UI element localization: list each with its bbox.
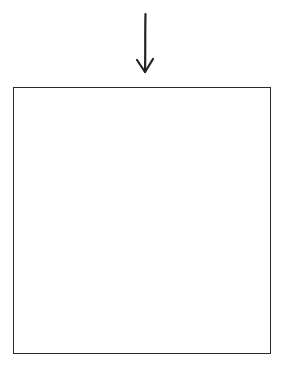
down-arrow-icon (125, 10, 165, 76)
empty-box (13, 87, 271, 354)
arrow-shaft (145, 14, 146, 72)
